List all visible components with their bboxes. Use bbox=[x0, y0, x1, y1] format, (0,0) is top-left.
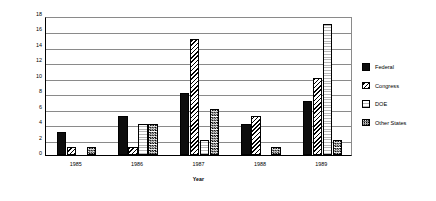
bar-group-1985 bbox=[46, 18, 107, 155]
bar-1987-doe bbox=[200, 140, 209, 155]
x-axis-title: Year bbox=[45, 176, 352, 182]
legend-item-label: Congress bbox=[375, 82, 399, 90]
legend-swatch-icon bbox=[362, 63, 370, 71]
bar-1986-congress bbox=[128, 147, 137, 155]
x-axis-tick-label: 1988 bbox=[254, 160, 266, 168]
y-axis-tick-label: 16 bbox=[36, 26, 42, 32]
bar-1985-other-states bbox=[87, 147, 96, 155]
legend-item-other-states: Other States bbox=[362, 118, 436, 128]
bar-1989-congress bbox=[313, 78, 322, 155]
legend-item-label: Federal bbox=[375, 63, 394, 71]
legend-swatch-icon bbox=[362, 119, 370, 127]
legend-item-federal: Federal bbox=[362, 62, 436, 72]
bar-1987-other-states bbox=[210, 109, 219, 155]
chart-legend: FederalCongressDOEOther States bbox=[362, 62, 436, 136]
bar-1987-federal bbox=[180, 93, 189, 155]
x-axis-tick-label: 1989 bbox=[315, 160, 327, 168]
y-axis-tick-labels: 024681012141618 bbox=[24, 14, 42, 156]
y-axis-tick-label: 14 bbox=[36, 42, 42, 48]
bar-group-1987 bbox=[169, 18, 230, 155]
bar-group-1989 bbox=[292, 18, 353, 155]
x-axis-tick-label: 1985 bbox=[70, 160, 82, 168]
bar-1988-congress bbox=[251, 116, 260, 155]
bar-group-1988 bbox=[230, 18, 291, 155]
bar-1986-federal bbox=[118, 116, 127, 155]
bar-1989-doe bbox=[323, 24, 332, 155]
legend-item-label: DOE bbox=[375, 100, 387, 108]
y-axis-tick-label: 18 bbox=[36, 11, 42, 17]
x-axis-tick-labels: 19851986198719881989 bbox=[45, 160, 352, 170]
bar-1986-doe bbox=[138, 124, 147, 155]
bar-group-1986 bbox=[107, 18, 168, 155]
legend-item-doe: DOE bbox=[362, 99, 436, 109]
legend-item-congress: Congress bbox=[362, 81, 436, 91]
bar-1985-federal bbox=[57, 132, 66, 155]
bar-1988-other-states bbox=[271, 147, 280, 155]
legend-swatch-icon bbox=[362, 82, 370, 90]
plot-area bbox=[45, 17, 352, 156]
bar-1989-other-states bbox=[333, 140, 342, 155]
legend-swatch-icon bbox=[362, 100, 370, 108]
bar-1986-other-states bbox=[148, 124, 157, 155]
bar-1989-federal bbox=[303, 101, 312, 155]
bar-1985-congress bbox=[67, 147, 76, 155]
bar-1988-federal bbox=[241, 124, 250, 155]
y-axis-tick-label: 4 bbox=[39, 119, 42, 125]
bars-layer bbox=[46, 18, 351, 155]
y-axis-tick-label: 8 bbox=[39, 88, 42, 94]
bar-1987-congress bbox=[190, 39, 199, 155]
y-axis-tick-label: 10 bbox=[36, 73, 42, 79]
bar-chart: Number of times cited 024681012141618 19… bbox=[0, 0, 436, 201]
legend-item-label: Other States bbox=[375, 119, 406, 127]
y-axis-tick-label: 2 bbox=[39, 135, 42, 141]
x-axis-tick-label: 1986 bbox=[131, 160, 143, 168]
y-axis-tick-label: 6 bbox=[39, 104, 42, 110]
y-axis-tick-label: 12 bbox=[36, 57, 42, 63]
y-axis-tick-label: 0 bbox=[39, 150, 42, 156]
x-axis-tick-label: 1987 bbox=[193, 160, 205, 168]
